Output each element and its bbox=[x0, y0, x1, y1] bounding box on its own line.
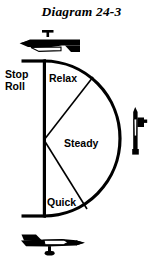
airplane-inverted-icon bbox=[20, 30, 81, 52]
label-quick: Quick bbox=[47, 197, 76, 209]
diagram-figure: Diagram 24-3 bbox=[0, 0, 163, 270]
diagram-canvas bbox=[0, 0, 163, 270]
label-stop-roll-line1: Stop bbox=[5, 69, 28, 81]
upper-chord-line bbox=[44, 77, 93, 140]
airplane-upright-icon bbox=[21, 235, 85, 256]
label-stop-roll-line2: Roll bbox=[5, 81, 28, 93]
label-steady: Steady bbox=[64, 138, 98, 150]
label-relax: Relax bbox=[49, 73, 77, 85]
airplane-vertical-icon bbox=[132, 107, 147, 155]
label-stop-roll: Stop Roll bbox=[5, 69, 28, 92]
